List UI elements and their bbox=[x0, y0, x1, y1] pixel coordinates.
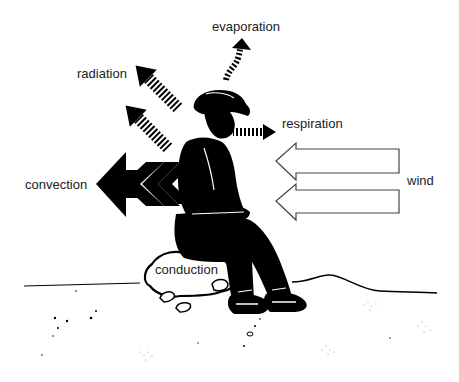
heat-loss-diagram: evaporation radiation respiration convec… bbox=[0, 0, 459, 382]
conduction-label: conduction bbox=[155, 263, 218, 276]
respiration-arrow bbox=[233, 124, 276, 140]
convection-arrow bbox=[96, 152, 192, 217]
ground-speckles bbox=[41, 290, 390, 356]
radiation-arrows bbox=[117, 57, 186, 156]
respiration-label: respiration bbox=[282, 117, 343, 130]
convection-label: convection bbox=[25, 178, 87, 191]
wind-arrows bbox=[276, 143, 399, 220]
evaporation-arrow bbox=[226, 38, 251, 80]
wind-label: wind bbox=[407, 174, 434, 187]
evaporation-label: evaporation bbox=[212, 20, 280, 33]
radiation-label: radiation bbox=[77, 67, 127, 80]
